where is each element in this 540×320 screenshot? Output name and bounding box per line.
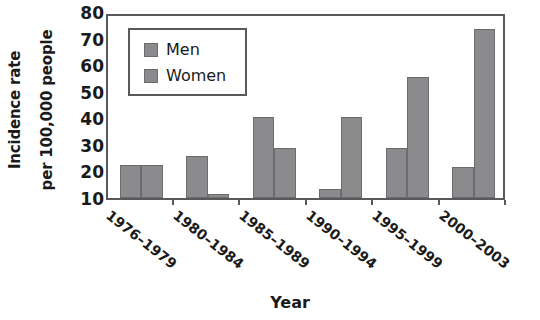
x-axis-tick-mark	[371, 200, 373, 205]
bar-women-1990-1994	[341, 117, 363, 198]
bar-men-1995-1999	[386, 148, 408, 198]
bar-women-2000-2003	[474, 29, 496, 198]
legend: Men Women	[128, 28, 247, 96]
x-axis-tick-mark	[172, 200, 174, 205]
legend-swatch-men-icon	[144, 43, 158, 57]
y-axis-tick-label: 40	[60, 111, 104, 128]
x-axis-tick-mark	[504, 200, 506, 205]
y-axis-tick-label: 60	[60, 58, 104, 75]
legend-item-women: Women	[144, 63, 245, 89]
x-axis-title: Year	[0, 293, 540, 312]
plot-area: Men Women	[106, 14, 505, 200]
y-axis-tick-label: 80	[60, 5, 104, 22]
x-axis-tick-label: 1990–1994	[303, 207, 381, 273]
y-axis-tick-label: 20	[60, 164, 104, 181]
x-axis-tick-label: 1976–1979	[103, 207, 181, 273]
y-axis-tick-label: 70	[60, 32, 104, 49]
bar-men-1980-1984	[186, 156, 208, 199]
bar-women-1985-1989	[274, 148, 296, 198]
x-axis-tick-mark	[238, 200, 240, 205]
legend-item-men: Men	[144, 37, 245, 63]
legend-swatch-women-icon	[144, 69, 158, 83]
bar-men-1990-1994	[319, 189, 341, 198]
bar-women-1976-1979	[141, 165, 163, 198]
bar-men-1985-1989	[253, 117, 275, 198]
x-axis-tick-mark	[305, 200, 307, 205]
bar-chart-figure: Incidence rate per 100,000 people 102030…	[0, 0, 540, 320]
y-axis-title-line-1: Incidence rate	[6, 51, 24, 169]
y-axis-tick-label: 30	[60, 138, 104, 155]
bar-women-1980-1984	[208, 194, 230, 198]
x-axis-tick-label: 1985–1989	[236, 207, 314, 273]
x-axis-tick-mark	[438, 200, 440, 205]
legend-label-women: Women	[166, 68, 226, 84]
y-axis-tick-label: 50	[60, 85, 104, 102]
y-axis-tick-label: 10	[60, 191, 104, 208]
bar-women-1995-1999	[407, 77, 429, 198]
bar-men-1976-1979	[120, 165, 142, 198]
x-axis-tick-label: 2000–2003	[436, 207, 514, 273]
legend-label-men: Men	[166, 42, 200, 58]
x-axis-tick-label: 1995–1999	[369, 207, 447, 273]
y-axis-tick-labels: 1020304050607080	[52, 0, 104, 320]
x-axis-tick-label: 1980–1984	[170, 207, 248, 273]
bar-men-2000-2003	[452, 167, 474, 198]
